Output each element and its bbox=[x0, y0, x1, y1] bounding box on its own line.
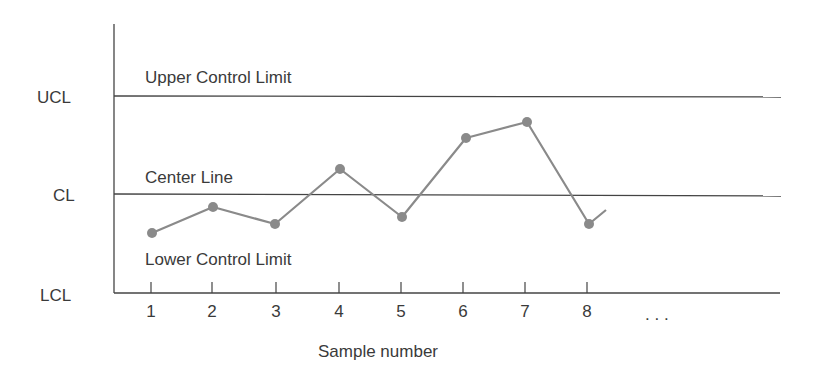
x-tick-label: 4 bbox=[329, 303, 349, 320]
x-ticks bbox=[151, 282, 587, 293]
x-tick-label: 3 bbox=[266, 303, 286, 320]
data-point bbox=[208, 202, 218, 212]
cl-line-label: Center Line bbox=[145, 169, 233, 186]
x-axis-label: Sample number bbox=[318, 343, 438, 360]
y-label-lcl: LCL bbox=[40, 287, 71, 304]
data-point bbox=[270, 219, 280, 229]
y-label-cl: CL bbox=[53, 187, 75, 204]
data-point bbox=[335, 164, 345, 174]
x-tick-label: 8 bbox=[577, 303, 597, 320]
y-label-ucl: UCL bbox=[37, 89, 71, 106]
cl-line bbox=[114, 194, 781, 196]
data-point bbox=[461, 133, 471, 143]
x-axis-ellipsis: . . . bbox=[645, 306, 669, 323]
x-tick-label: 5 bbox=[391, 303, 411, 320]
x-tick-label: 6 bbox=[453, 303, 473, 320]
lcl-line-label: Lower Control Limit bbox=[145, 251, 291, 268]
x-tick-label: 1 bbox=[141, 303, 161, 320]
ucl-line-label: Upper Control Limit bbox=[145, 69, 291, 86]
control-chart bbox=[0, 0, 820, 383]
data-point bbox=[147, 228, 157, 238]
x-tick-label: 2 bbox=[202, 303, 222, 320]
ucl-line bbox=[114, 96, 781, 97]
data-point bbox=[522, 117, 532, 127]
data-point bbox=[584, 219, 594, 229]
x-tick-label: 7 bbox=[515, 303, 535, 320]
data-point bbox=[397, 212, 407, 222]
